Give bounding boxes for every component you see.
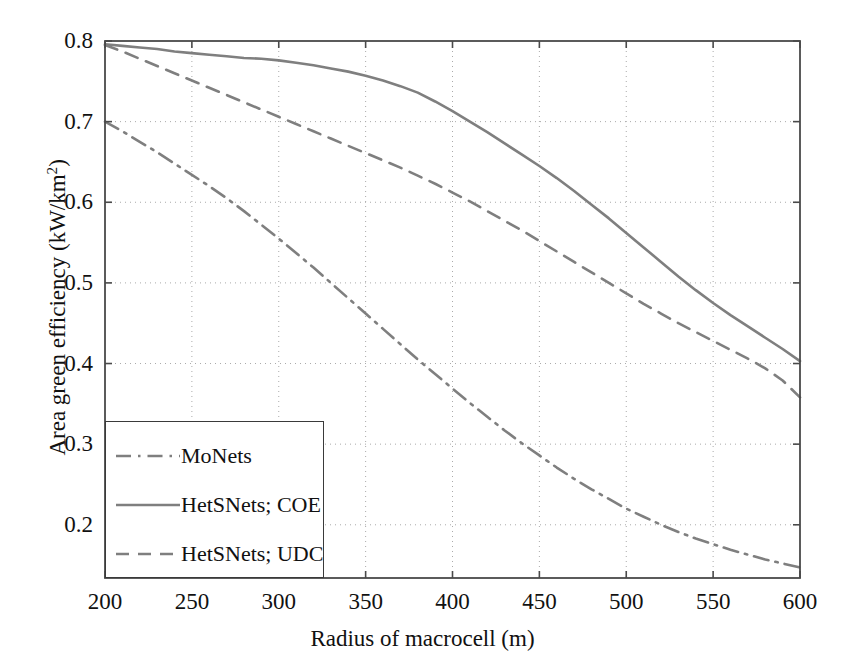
legend-item[interactable]: MoNets — [106, 436, 323, 476]
chart-figure: 0.20.30.40.50.60.70.8 200250300350400450… — [0, 0, 845, 664]
legend-item-label: HetSNets; UDC — [181, 541, 323, 567]
legend-swatch-icon — [115, 496, 181, 514]
legend: MoNetsHetSNets; COEHetSNets; UDC — [105, 421, 324, 578]
legend-line-swatch — [115, 447, 181, 465]
x-tick-label: 250 — [152, 590, 232, 613]
x-tick-label: 350 — [326, 590, 406, 613]
y-axis-label-tail: ) — [45, 159, 70, 167]
x-tick-label: 200 — [65, 590, 145, 613]
legend-swatch-icon — [115, 545, 181, 563]
x-tick-label: 550 — [673, 590, 753, 613]
x-tick-label: 600 — [760, 590, 840, 613]
legend-line-swatch — [115, 496, 181, 514]
x-tick-label: 400 — [413, 590, 493, 613]
y-axis-label: Area green efficiency (kW/km2) — [43, 27, 72, 587]
legend-line-swatch — [115, 545, 181, 563]
legend-item-label: MoNets — [181, 443, 252, 469]
y-axis-label-superscript: 2 — [43, 167, 60, 175]
x-tick-label: 500 — [586, 590, 666, 613]
x-axis-label: Radius of macrocell (m) — [0, 626, 845, 652]
legend-item[interactable]: HetSNets; COE — [106, 485, 323, 525]
legend-swatch-icon — [115, 447, 181, 465]
legend-item-label: HetSNets; COE — [181, 492, 321, 518]
legend-item[interactable]: HetSNets; UDC — [106, 534, 323, 574]
x-tick-label: 300 — [239, 590, 319, 613]
y-axis-label-base: Area green efficiency (kW/km — [45, 174, 70, 455]
x-tick-label: 450 — [499, 590, 579, 613]
